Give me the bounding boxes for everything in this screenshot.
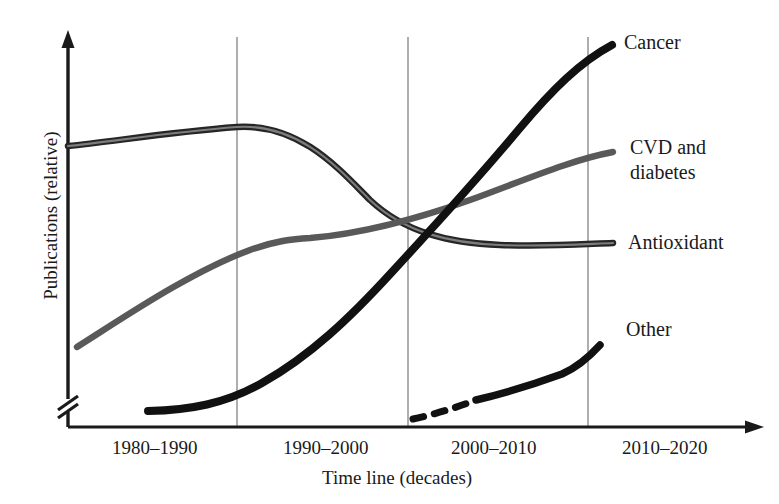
y-axis	[62, 30, 75, 427]
series-line-other	[413, 345, 600, 419]
series-label-cvd-diabetes-line1: CVD and	[630, 136, 706, 158]
x-axis	[68, 421, 764, 434]
series-label-cancer: Cancer	[624, 31, 681, 53]
series-label-cvd-diabetes-line2: diabetes	[630, 161, 696, 183]
series-label-antioxidant: Antioxidant	[628, 231, 724, 253]
x-axis-title: Time line (decades)	[322, 467, 472, 488]
series-line-antioxidant	[68, 127, 613, 246]
x-tick-label-1980-1990: 1980–1990	[112, 437, 198, 458]
y-axis-title: Publications (relative)	[40, 131, 61, 299]
figure-container: Cancer CVD and diabetes Antioxidant Othe…	[0, 0, 779, 504]
y-axis-title-wrapper: Publications (relative)	[40, 101, 61, 331]
x-tick-label-2010-2020: 2010–2020	[622, 437, 708, 458]
x-tick-label-2000-2010: 2000–2010	[451, 437, 537, 458]
x-tick-label-1990-2000: 1990–2000	[283, 437, 369, 458]
series-label-other: Other	[626, 318, 672, 340]
